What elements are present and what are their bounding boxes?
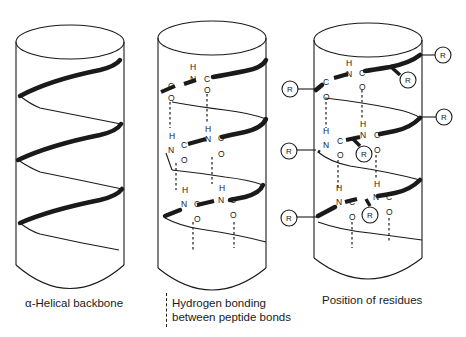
svg-text:C: C [374,130,380,140]
svg-text:N: N [205,134,211,144]
svg-text:C: C [218,133,224,143]
residue-circle: R [356,146,372,162]
svg-text:H: H [336,183,342,193]
hydrogen-bond-legend-icon [166,293,167,327]
svg-text:R: R [361,150,367,159]
residue-circle: R [436,109,452,125]
svg-text:O: O [181,155,188,165]
cylinder-hbonds [158,21,266,290]
residue-circle: R [362,207,378,223]
svg-text:C: C [349,197,355,207]
svg-text:R: R [286,214,292,223]
svg-text:H: H [360,119,366,129]
caption-helical-backbone: α-Helical backbone [25,296,123,310]
svg-text:N: N [373,192,379,202]
svg-text:C: C [337,136,343,146]
svg-text:C: C [386,192,392,202]
residue-circle: R [281,143,297,159]
svg-text:H: H [323,126,329,136]
svg-text:N: N [190,74,196,84]
svg-text:C: C [194,199,200,209]
svg-text:C: C [181,140,187,150]
svg-text:R: R [287,85,293,94]
residue-circle: R [400,72,416,88]
svg-text:N: N [218,195,224,205]
svg-text:O: O [230,210,237,220]
svg-text:R: R [367,211,373,220]
svg-text:H: H [190,62,196,72]
svg-text:O: O [349,212,356,222]
svg-text:O: O [386,207,393,217]
svg-text:R: R [286,147,292,156]
svg-text:C: C [323,77,329,87]
svg-text:R: R [440,51,446,60]
svg-text:C: C [230,195,236,205]
caption-line-2: between peptide bonds [172,310,291,324]
caption-line-1: Hydrogen bonding [172,296,291,310]
svg-text:O: O [337,150,344,160]
svg-text:R: R [441,113,447,122]
residue-circle: R [281,210,297,226]
svg-text:O: O [204,85,211,95]
svg-text:N: N [323,140,329,150]
cylinder-backbone [16,25,124,289]
caption-hydrogen-bonding: Hydrogen bonding between peptide bonds [172,296,291,324]
svg-text:C: C [359,68,365,78]
svg-text:R: R [405,76,411,85]
svg-text:O: O [194,214,201,224]
atom-labels-hbonds: H N C O C O H N C O H N C O H N C O H N … [168,62,237,224]
svg-text:C: C [168,81,174,91]
svg-text:C: C [204,74,210,84]
alpha-helix-figure: H N C O C O H N C O H N C O H N C O H N … [0,0,466,337]
residue-circle: R [282,81,298,97]
svg-text:H: H [374,179,380,189]
svg-text:H: H [346,58,352,68]
svg-text:H: H [169,131,175,141]
svg-text:H: H [182,185,188,195]
svg-text:H: H [219,183,225,193]
svg-text:N: N [346,69,352,79]
svg-text:O: O [323,92,330,102]
residue-circle: R [435,47,451,63]
svg-text:O: O [218,149,225,159]
caption-position-of-residues: Position of residues [322,293,422,307]
svg-text:N: N [360,130,366,140]
svg-text:N: N [336,197,342,207]
svg-text:O: O [168,93,175,103]
svg-text:O: O [359,82,366,92]
svg-text:N: N [181,199,187,209]
svg-text:O: O [374,145,381,155]
svg-text:N: N [168,145,174,155]
svg-text:H: H [205,124,211,134]
